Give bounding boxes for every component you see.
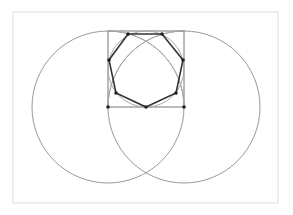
- vertex-point: [181, 58, 185, 62]
- vertex-point: [144, 105, 148, 109]
- vertex-point: [106, 105, 110, 109]
- vertex-point: [126, 32, 130, 36]
- geometry-diagram: [0, 0, 293, 215]
- vertex-point: [160, 32, 164, 36]
- vertex-point: [182, 105, 186, 109]
- inscribed-circle: [108, 31, 184, 107]
- diagram-canvas: [0, 0, 293, 215]
- vertex-point: [107, 58, 111, 62]
- vertex-point: [174, 91, 178, 95]
- heptagon: [109, 34, 183, 107]
- vertex-point: [114, 91, 118, 95]
